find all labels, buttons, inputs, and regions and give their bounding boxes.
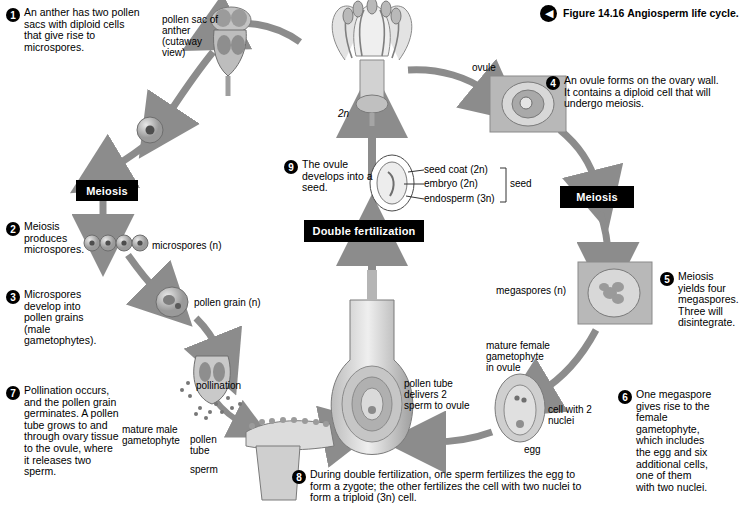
- label-mature-female-gametophyte: mature female gametophyte in ovule: [486, 340, 550, 373]
- step-text-7: Pollination occurs, and the pollen grain…: [24, 385, 120, 478]
- ovary-illustration: [331, 270, 413, 455]
- step-number-4: 4: [546, 76, 560, 90]
- label-megaspores: megaspores (n): [496, 285, 566, 296]
- label-embryo: embryo (2n): [424, 178, 478, 189]
- step-number-9: 9: [284, 160, 298, 174]
- chevron-left-icon[interactable]: ◀: [540, 5, 557, 22]
- step-text-4: An ovule forms on the ovary wall. It con…: [564, 75, 724, 110]
- step-number-2: 2: [6, 222, 20, 236]
- pollen-grain-illustration: [156, 287, 188, 317]
- meiosis-box-right: Meiosis: [560, 186, 634, 208]
- figure-title: Angiosperm life cycle.: [627, 7, 738, 19]
- label-pollination: pollination: [196, 380, 241, 391]
- figure-number: Figure 14.16: [563, 7, 624, 19]
- microspores-row: [84, 235, 148, 251]
- label-ovule: ovule: [472, 62, 496, 73]
- step-text-3: Microspores develop into pollen grains (…: [24, 289, 90, 347]
- step-number-5: 5: [660, 272, 674, 286]
- step-number-6: 6: [618, 390, 632, 404]
- double-fertilization-box: Double fertilization: [304, 220, 424, 242]
- step-text-5: Meiosis yields four megaspores. Three wi…: [678, 271, 740, 329]
- step-number-8: 8: [292, 470, 306, 484]
- microspore-mother-cell: [137, 117, 163, 143]
- step-text-8: During double fertilization, one sperm f…: [310, 469, 584, 504]
- label-cell-with-2-nuclei: cell with 2 nuclei: [548, 404, 592, 426]
- label-pollen-tube: pollen tube: [190, 434, 234, 456]
- label-egg: egg: [524, 444, 541, 455]
- label-pollen-sac: pollen sac of anther (cutaway view): [162, 14, 224, 58]
- label-pollen-tube-delivers: pollen tube delivers 2 sperm to ovule: [404, 378, 472, 411]
- label-2n: 2n: [338, 108, 349, 119]
- figure-caption: ◀ Figure 14.16 Angiosperm life cycle.: [540, 2, 743, 24]
- step-number-1: 1: [6, 8, 20, 22]
- label-seed-coat: seed coat (2n): [424, 164, 488, 175]
- female-gametophyte-illustration: [495, 374, 545, 442]
- label-microspores: microspores (n): [152, 240, 221, 251]
- step-text-2: Meiosis produces microspores.: [24, 221, 84, 256]
- label-endosperm: endosperm (3n): [424, 193, 495, 204]
- step-number-3: 3: [6, 290, 20, 304]
- label-seed: seed: [510, 178, 532, 189]
- step-text-6: One megaspore gives rise to the female g…: [636, 389, 712, 493]
- step-text-1: An anther has two pollen sacs with diplo…: [24, 7, 142, 53]
- step-number-7: 7: [6, 386, 20, 400]
- step-text-9: The ovule develops into a seed.: [302, 159, 382, 194]
- megaspores-panel: [578, 262, 652, 324]
- label-mature-male-gametophyte: mature male gametophyte: [122, 424, 184, 446]
- label-pollen-grain: pollen grain (n): [194, 297, 261, 308]
- label-sperm: sperm: [190, 464, 218, 475]
- meiosis-box-left: Meiosis: [76, 180, 138, 201]
